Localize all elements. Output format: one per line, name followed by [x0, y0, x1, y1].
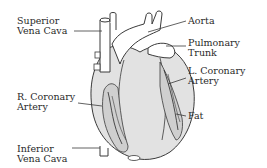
label-l-coronary-artery: L. Coronary Artery [188, 66, 245, 86]
label-line: Vena Cava [17, 154, 67, 164]
label-inferior-vena-cava: Inferior Vena Cava [17, 144, 67, 164]
label-aorta: Aorta [188, 16, 215, 26]
heart-diagram: Superior Vena Cava Aorta Pulmonary Trunk… [0, 0, 267, 168]
superior-vena-cava [100, 20, 110, 72]
label-line: Artery [188, 76, 245, 86]
label-line: Trunk [188, 48, 240, 58]
label-line: Artery [17, 102, 75, 112]
label-line: Vena Cava [17, 26, 67, 36]
label-fat: Fat [188, 111, 203, 121]
label-pulmonary-trunk: Pulmonary Trunk [188, 38, 240, 58]
label-r-coronary-artery: R. Coronary Artery [17, 92, 75, 112]
inferior-vena-cava [100, 146, 108, 156]
label-line: Aorta [188, 16, 215, 26]
label-superior-vena-cava: Superior Vena Cava [17, 16, 67, 36]
label-line: Fat [188, 111, 203, 121]
